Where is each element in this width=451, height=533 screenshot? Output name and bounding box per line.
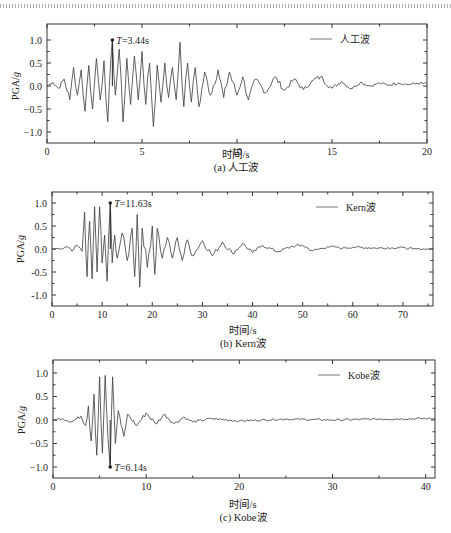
- x-tick-label: 20: [147, 309, 157, 320]
- x-tick-label: 30: [197, 309, 207, 320]
- legend-label: Kern波: [346, 201, 376, 213]
- x-tick-label: 0: [45, 146, 50, 157]
- y-tick-label: 0.0: [30, 81, 43, 92]
- y-tick-label: -0.5: [31, 267, 47, 278]
- peak-annotation: T=3.44s: [116, 35, 149, 46]
- x-tick-label: 40: [421, 481, 431, 492]
- legend-label: Kobe波: [348, 369, 380, 381]
- y-tick-label: -1.0: [31, 290, 47, 301]
- caption-b: (b) Kern波: [183, 335, 303, 350]
- y-tick-label: 0.0: [35, 244, 48, 255]
- peak-marker: [111, 38, 115, 42]
- x-tick-label: 10: [97, 309, 107, 320]
- y-tick-label: 0.5: [35, 221, 48, 232]
- y-tick-label: −1.0: [24, 127, 42, 138]
- y-axis-label: PGA/g: [10, 72, 21, 100]
- x-tick-label: 0: [51, 481, 56, 492]
- series-line: [47, 40, 427, 127]
- x-tick-label: 60: [348, 309, 358, 320]
- y-tick-label: −0.5: [24, 104, 42, 115]
- series-line: [52, 203, 433, 287]
- caption-a: (a) 人工波: [176, 159, 296, 174]
- x-tick-label: 0: [50, 309, 55, 320]
- peak-marker: [109, 201, 113, 205]
- y-tick-label: 0.5: [30, 58, 43, 69]
- legend-label: 人工波: [340, 33, 370, 45]
- y-tick-label: 0.5: [36, 391, 49, 402]
- x-tick-label: 5: [140, 146, 145, 157]
- x-tick-label: 15: [327, 146, 337, 157]
- x-tick-label: 50: [298, 309, 308, 320]
- y-tick-label: 1.0: [30, 35, 43, 46]
- y-tick-label: −1.0: [30, 462, 48, 473]
- peak-annotation: T=6.14s: [114, 462, 147, 473]
- x-tick-label: 20: [422, 146, 432, 157]
- figure-canvas: 1.00.50.0−0.5−1.005101520PGA/gT=3.44s人工波…: [0, 0, 451, 533]
- x-tick-label: 10: [141, 481, 151, 492]
- y-tick-label: 0.0: [36, 415, 49, 426]
- x-tick-label: 40: [248, 309, 258, 320]
- peak-marker: [108, 465, 112, 469]
- y-axis-label: PGA/g: [15, 235, 26, 263]
- x-tick-label: 70: [398, 309, 408, 320]
- y-axis-label: PGA/g: [16, 406, 27, 434]
- y-tick-label: 1.0: [36, 368, 49, 379]
- y-tick-label: −0.5: [30, 438, 48, 449]
- x-tick-label: 20: [234, 481, 244, 492]
- caption-c: (c) Kobe波: [183, 509, 303, 524]
- peak-annotation: T=11.63s: [114, 198, 151, 209]
- plot-frame: [47, 24, 427, 143]
- x-tick-label: 30: [328, 481, 338, 492]
- y-tick-label: 1.0: [35, 198, 48, 209]
